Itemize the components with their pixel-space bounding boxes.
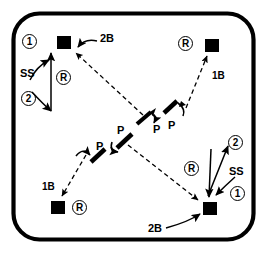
base-bottom-right [203, 202, 217, 215]
label-pitcher-upper-center: P [153, 124, 160, 135]
label-base-topright: 1B [212, 71, 225, 81]
label-ss-bottomright: SS [229, 166, 244, 177]
play-diagram-svg [0, 0, 267, 253]
label-base-topleft: 2B [100, 33, 114, 44]
label-pitcher-center: P [117, 125, 124, 136]
marker-runner-topleft: R [56, 70, 71, 85]
marker-runner-topright: R [178, 36, 193, 51]
base-bottom-left [51, 201, 65, 214]
label-ss-topleft: SS [20, 68, 35, 79]
label-pitcher-left: P [96, 141, 103, 152]
marker-runner-bottomleft: R [72, 200, 87, 215]
label-base-bottomleft: 1B [42, 182, 55, 192]
marker-step-one-bottomright: 1 [230, 186, 245, 201]
marker-step-one-topleft: 1 [22, 34, 37, 49]
base-top-right [205, 39, 219, 52]
base-top-left [57, 36, 71, 49]
marker-step-two-bottomright: 2 [228, 135, 243, 150]
marker-runner-bottomright: R [184, 161, 199, 176]
label-pitcher-right: P [168, 120, 175, 131]
diagram-canvas: 1 SS 2 R 2B R 1B P P P P 1B R 2 SS 1 R 2… [0, 0, 267, 253]
marker-step-two-topleft: 2 [21, 91, 36, 106]
label-base-bottomright: 2B [148, 223, 162, 234]
